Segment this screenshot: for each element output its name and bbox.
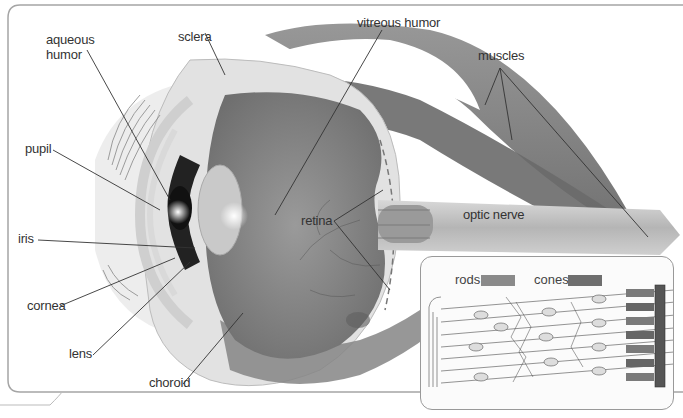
label-pupil: pupil <box>25 141 51 156</box>
label-iris: iris <box>18 231 34 246</box>
legend-cones-swatch <box>568 275 602 286</box>
label-cornea: cornea <box>27 298 66 313</box>
label-aqueous-line2: humor <box>46 47 94 62</box>
label-retina: retina <box>301 213 332 228</box>
label-lens: lens <box>69 346 92 361</box>
label-muscles: muscles <box>478 48 524 63</box>
label-vitreous-humor: vitreous humor <box>357 15 440 30</box>
label-sclera: sclera <box>178 29 211 44</box>
label-aqueous-humor: aqueous humor <box>46 32 94 62</box>
legend-rods-swatch <box>481 275 515 286</box>
legend-rods-label: rods <box>455 272 480 287</box>
legend-cones-label: cones <box>534 272 569 287</box>
label-aqueous-line1: aqueous <box>46 32 94 47</box>
label-choroid: choroid <box>149 375 190 390</box>
eye-diagram: aqueous humor sclera vitreous humor musc… <box>0 0 683 418</box>
label-optic-nerve: optic nerve <box>463 207 524 222</box>
